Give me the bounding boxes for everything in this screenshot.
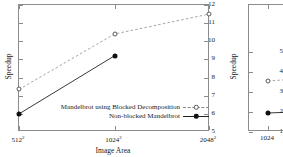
right-x-tick-label: 1024 [260,134,274,142]
left-x-tick-label-text: 512 [12,136,23,144]
left-x-tick-label: 5122 [12,134,25,144]
filled-circle-icon [194,114,199,119]
blocked-data-point [266,79,271,84]
left-x-tick-label: 20482 [200,134,217,144]
blocked-data-point [207,12,212,17]
nonblocked-data-point [112,53,117,58]
blocked-series-line [19,14,209,89]
legend-key-nonblocked [183,113,209,120]
figure-root: Speedup 12 11 10 9 8 7 6 5 [0,0,283,157]
left-y-axis-title: Speedup [4,50,13,84]
left-x-tick-sup: 2 [22,135,25,140]
blocked-data-point [112,32,117,37]
left-chart-legend: Mandelbrot using Blocked Decomposition N… [41,103,209,121]
left-x-axis-title: Image Area [96,146,131,155]
legend-label-nonblocked: Non-blocked Mandelbrot [109,112,180,121]
legend-item-nonblocked: Non-blocked Mandelbrot [41,112,209,121]
legend-key-blocked [183,104,209,111]
legend-item-blocked: Mandelbrot using Blocked Decomposition [41,103,209,112]
right-y-axis-title: Speedup [229,50,238,84]
left-chart-panel: Speedup 12 11 10 9 8 7 6 5 [0,0,215,157]
blocked-data-point [17,87,22,92]
left-x-tick-label-text: 1024 [105,136,119,144]
left-x-tick-sup: 2 [119,135,122,140]
right-chart-panel: Speedup 5 4 3 2 1 1024 [215,0,283,157]
legend-label-blocked: Mandelbrot using Blocked Decomposition [61,103,180,112]
left-plot-frame: Mandelbrot using Blocked Decomposition N… [18,4,209,131]
left-x-tick-label-text: 2048 [200,136,214,144]
nonblocked-data-point [17,111,22,116]
nonblocked-data-point [266,111,271,116]
right-plot-frame [248,4,283,131]
right-y-tick [249,132,253,133]
open-circle-icon [194,105,199,110]
left-x-tick-label: 10242 [105,134,122,144]
